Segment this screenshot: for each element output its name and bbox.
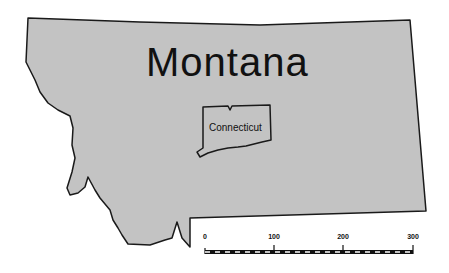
inset-label: Connecticut [209, 122, 262, 133]
scale-tick-300: 300 [407, 233, 419, 240]
scale-tick-0: 0 [203, 233, 207, 240]
map-title: Montana [146, 40, 309, 85]
scale-bar [205, 245, 413, 254]
scale-tick-200: 200 [337, 233, 349, 240]
scale-tick-100: 100 [268, 233, 280, 240]
